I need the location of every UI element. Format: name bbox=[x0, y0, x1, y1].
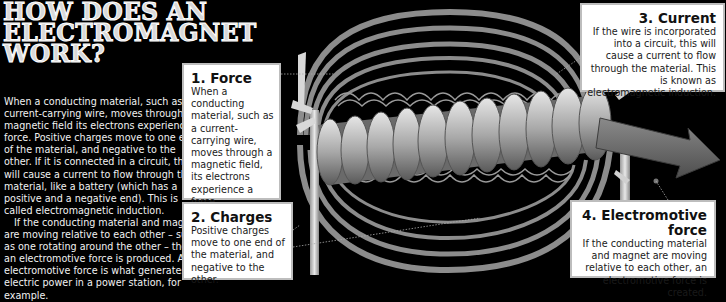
callout-current: 3. Current If the wire is incorporated i… bbox=[580, 3, 725, 92]
callout-heading: 3. Current bbox=[586, 11, 716, 26]
title-line-3: work? bbox=[3, 44, 253, 65]
intro-paragraph-1: When a conducting material, such as a cu… bbox=[4, 96, 200, 217]
intro-text: When a conducting material, such as a cu… bbox=[4, 96, 200, 302]
page-title: How does an electromagnet work? bbox=[3, 2, 253, 65]
callout-force: 1. Force When a conducting material, suc… bbox=[182, 63, 281, 200]
left-support-post bbox=[310, 110, 319, 275]
callout-heading: 1. Force bbox=[191, 71, 275, 86]
callout-text: Positive charges move to one end of the … bbox=[191, 225, 287, 286]
callout-text: When a conducting material, such as a cu… bbox=[191, 86, 275, 208]
callout-heading: 4. Electromotive force bbox=[576, 208, 707, 238]
current-arrow bbox=[596, 118, 720, 178]
callout-charges: 2. Charges Positive charges move to one … bbox=[182, 202, 293, 280]
callout-electromotive-force: 4. Electromotive force If the conducting… bbox=[570, 200, 716, 278]
callout-heading: 2. Charges bbox=[191, 210, 287, 225]
intro-paragraph-2: If the conducting material and magnet ar… bbox=[4, 217, 200, 302]
callout-text: If the wire is incorporated into a circu… bbox=[586, 26, 716, 99]
callout-text: If the conducting material and magnet ar… bbox=[576, 238, 707, 299]
